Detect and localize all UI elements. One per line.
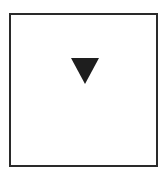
triangle-down-icon[interactable] xyxy=(71,58,99,84)
box-frame xyxy=(9,13,158,167)
